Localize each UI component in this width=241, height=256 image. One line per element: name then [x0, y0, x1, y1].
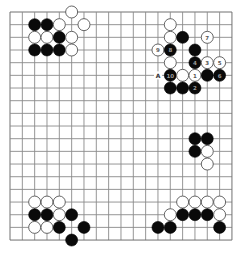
black-stone: [66, 209, 78, 221]
black-stone: [29, 44, 41, 56]
black-stone: [53, 31, 65, 43]
black-stone-circle: [53, 31, 65, 43]
white-stone: [41, 221, 53, 233]
black-stone-circle: [78, 221, 90, 233]
black-stone-circle: [152, 221, 164, 233]
black-stone: [189, 145, 201, 157]
white-stone-circle: [164, 209, 176, 221]
white-stone: [29, 196, 41, 208]
black-stone-circle: [66, 209, 78, 221]
white-stone: 5: [214, 57, 226, 69]
white-stone: [214, 209, 226, 221]
black-stone-circle: [177, 31, 189, 43]
white-stone-circle: [201, 158, 213, 170]
move-number: 9: [156, 47, 160, 53]
black-stone: [189, 209, 201, 221]
white-stone: [189, 196, 201, 208]
black-stone: 6: [214, 69, 226, 81]
white-stone: [66, 31, 78, 43]
black-stone-circle: [53, 44, 65, 56]
white-stone-circle: [189, 196, 201, 208]
white-stone: [164, 19, 176, 31]
move-number: 4: [193, 60, 197, 66]
white-stone-circle: [41, 31, 53, 43]
white-stone: [201, 145, 213, 157]
white-stone: [53, 196, 65, 208]
black-stone: 8: [164, 44, 176, 56]
black-stone: [201, 69, 213, 81]
black-stone: [41, 19, 53, 31]
black-stone: [201, 209, 213, 221]
white-stone: [201, 196, 213, 208]
white-stone: [53, 19, 65, 31]
move-number: 6: [218, 73, 222, 79]
white-stone-circle: [66, 44, 78, 56]
white-stone: [164, 31, 176, 43]
white-stone: [53, 209, 65, 221]
white-stone-circle: [177, 196, 189, 208]
white-stone-circle: [164, 19, 176, 31]
black-stone-circle: [201, 209, 213, 221]
white-stone-circle: [177, 69, 189, 81]
black-stone-circle: [189, 145, 201, 157]
white-stone: 9: [152, 44, 164, 56]
white-stone-circle: [29, 31, 41, 43]
white-stone: [201, 158, 213, 170]
white-stone-circle: [78, 19, 90, 31]
black-stone-circle: [164, 82, 176, 94]
black-stone: [53, 44, 65, 56]
black-stone-circle: [214, 221, 226, 233]
white-stone-circle: [214, 209, 226, 221]
white-stone: 7: [201, 31, 213, 43]
go-board[interactable]: A 79843510162: [0, 0, 241, 256]
white-stone: [78, 19, 90, 31]
white-stone-circle: [201, 196, 213, 208]
move-number: 2: [193, 85, 197, 91]
black-stone-circle: [29, 19, 41, 31]
black-stone: [29, 209, 41, 221]
black-stone-circle: [189, 209, 201, 221]
white-stone: [29, 221, 41, 233]
white-stone-circle: [29, 196, 41, 208]
move-number: 10: [166, 73, 174, 79]
white-stone-circle: [66, 31, 78, 43]
black-stone-circle: [41, 19, 53, 31]
black-stone: [214, 221, 226, 233]
black-stone: 2: [189, 82, 201, 94]
black-stone-circle: [41, 209, 53, 221]
white-stone-circle: [164, 31, 176, 43]
black-stone: [152, 221, 164, 233]
black-stone: [189, 133, 201, 145]
black-stone: [164, 221, 176, 233]
black-stone: [177, 209, 189, 221]
white-stone: [29, 31, 41, 43]
white-stone-circle: [66, 6, 78, 18]
black-stone: 4: [189, 57, 201, 69]
white-stone: [41, 196, 53, 208]
white-stone-circle: [41, 196, 53, 208]
white-stone: [177, 69, 189, 81]
black-stone: [201, 133, 213, 145]
white-stone: 1: [189, 69, 201, 81]
move-number: 5: [218, 60, 222, 66]
white-stone: [214, 196, 226, 208]
move-number: 7: [205, 35, 209, 41]
white-stone: 3: [201, 57, 213, 69]
white-stone: [66, 6, 78, 18]
black-stone: [41, 44, 53, 56]
board-label: A: [156, 72, 161, 79]
white-stone: [177, 196, 189, 208]
white-stone-circle: [29, 221, 41, 233]
white-stone-circle: [41, 221, 53, 233]
white-stone: [164, 57, 176, 69]
white-stone: [66, 44, 78, 56]
black-stone-circle: [66, 234, 78, 246]
black-stone: [53, 221, 65, 233]
black-stone-circle: [177, 82, 189, 94]
black-stone-circle: [177, 209, 189, 221]
black-stone: [177, 82, 189, 94]
white-stone-circle: [53, 19, 65, 31]
move-number: 1: [193, 73, 197, 79]
black-stone-circle: [53, 221, 65, 233]
black-stone: 10: [164, 69, 176, 81]
